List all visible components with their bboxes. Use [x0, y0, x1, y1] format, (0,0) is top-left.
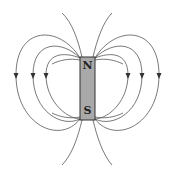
north-pole-label: N [80, 59, 95, 72]
arrow-down-icon [157, 73, 162, 79]
field-line-left-top-open [62, 13, 82, 57]
field-lines [0, 0, 173, 175]
magnet-field-diagram: N S [0, 0, 173, 175]
arrow-down-icon [140, 73, 145, 79]
arrow-down-icon [44, 73, 49, 79]
field-line-right-top-open [93, 13, 112, 57]
south-pole-label: S [80, 104, 95, 117]
arrow-down-icon [31, 73, 36, 79]
arrow-down-icon [14, 73, 19, 79]
arrow-down-icon [126, 73, 131, 79]
field-line-left-inner [46, 55, 80, 119]
field-line-left-middle [33, 46, 80, 121]
field-line-right-middle [95, 46, 142, 121]
field-line-right-bottom-open [93, 120, 112, 165]
field-line-right-inner [95, 55, 128, 119]
